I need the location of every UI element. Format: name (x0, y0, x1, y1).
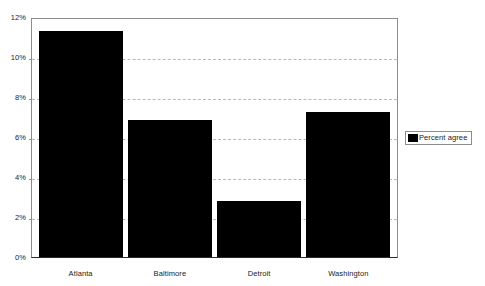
y-tick-label: 10% (11, 54, 26, 62)
bar-group (32, 19, 397, 257)
legend[interactable]: Percent agree (405, 131, 472, 145)
y-tick-label: 12% (11, 14, 26, 22)
y-tick-label: 8% (15, 94, 26, 102)
x-tick-label-baltimore: Baltimore (154, 269, 187, 278)
y-tick-label: 0% (15, 254, 26, 262)
y-tick-label: 2% (15, 214, 26, 222)
bar-slot (303, 19, 392, 257)
legend-swatch-icon (408, 134, 418, 142)
bar-slot (126, 19, 215, 257)
x-tick-label-atlanta: Atlanta (69, 269, 93, 278)
y-tick-label: 6% (15, 134, 26, 142)
x-label-slot: Baltimore (125, 262, 214, 280)
x-tick-label-washington: Washington (328, 269, 368, 278)
bar-detroit[interactable] (217, 201, 301, 257)
legend-label: Percent agree (419, 134, 467, 142)
bar-washington[interactable] (306, 112, 390, 257)
x-axis: Atlanta Baltimore Detroit Washington (31, 262, 398, 280)
y-tick-label: 4% (15, 174, 26, 182)
x-label-slot: Atlanta (36, 262, 125, 280)
x-label-slot: Washington (304, 262, 393, 280)
x-tick-label-detroit: Detroit (248, 269, 271, 278)
y-axis: 12% 10% 8% 6% 4% 2% 0% (0, 0, 31, 286)
plot-area (31, 18, 398, 258)
bar-baltimore[interactable] (128, 120, 212, 257)
x-label-slot: Detroit (215, 262, 304, 280)
bar-chart: 12% 10% 8% 6% 4% 2% 0% (0, 0, 485, 286)
bar-slot (215, 19, 304, 257)
bar-atlanta[interactable] (39, 31, 123, 257)
bar-slot (37, 19, 126, 257)
